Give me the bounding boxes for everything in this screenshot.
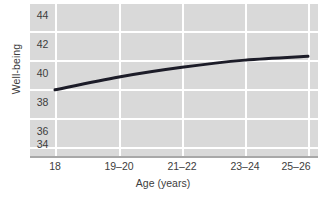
x-axis-title: Age (years) — [0, 177, 326, 189]
chart-figure: Well-being 44 42 40 38 36 34 18 19–20 21… — [0, 0, 326, 197]
x-axis-line — [30, 156, 318, 158]
series-line-well-being — [30, 2, 318, 157]
y-axis-title: Well-being — [10, 14, 24, 124]
x-tick-label: 25–26 — [266, 160, 326, 172]
x-tick-label: 21–22 — [152, 160, 212, 172]
x-tick-label: 18 — [25, 160, 85, 172]
x-tick-label: 19–20 — [89, 160, 149, 172]
